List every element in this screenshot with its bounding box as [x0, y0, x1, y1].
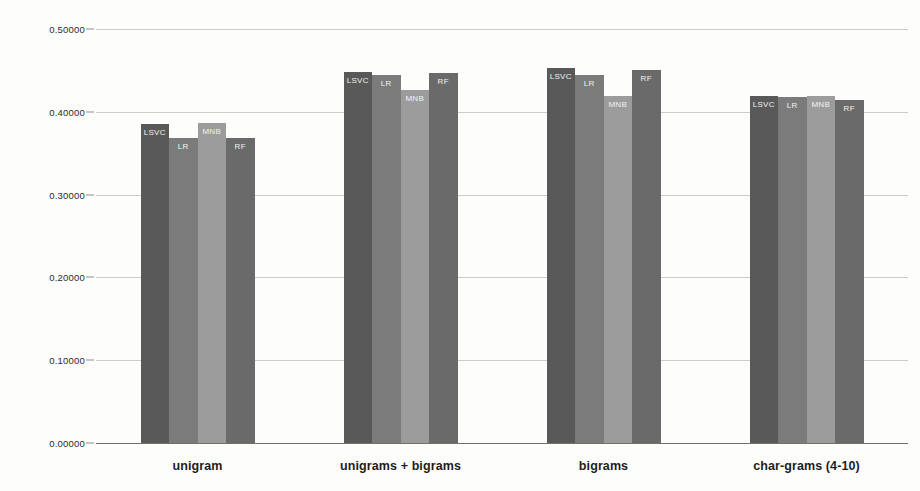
- category-label: unigram: [172, 459, 222, 473]
- y-axis-tick-label: 0.10000: [49, 355, 85, 366]
- bar-lr[interactable]: LR: [169, 138, 198, 443]
- bar-value-label: MNB: [807, 100, 836, 109]
- plot-area: 0.500000.400000.300000.200000.100000.000…: [96, 29, 908, 443]
- y-axis-tick: [86, 360, 94, 361]
- bar-value-label: LSVC: [344, 76, 373, 85]
- bar-mnb[interactable]: MNB: [807, 96, 836, 443]
- bar-lsvc[interactable]: LSVC: [344, 72, 373, 443]
- bar-value-label: RF: [632, 74, 661, 83]
- bar-rf[interactable]: RF: [835, 100, 864, 443]
- y-axis-tick-label: 0.50000: [49, 24, 85, 35]
- bar-lr[interactable]: LR: [575, 75, 604, 443]
- bar-value-label: MNB: [401, 94, 430, 103]
- y-axis-tick: [86, 194, 94, 195]
- bar-value-label: LSVC: [547, 72, 576, 81]
- category-label: bigrams: [579, 459, 628, 473]
- bar-mnb[interactable]: MNB: [604, 96, 633, 443]
- bar-rf[interactable]: RF: [632, 70, 661, 443]
- bar-value-label: RF: [226, 142, 255, 151]
- bar-value-label: LR: [778, 101, 807, 110]
- bar-group: LSVCLRMNBRF: [141, 29, 255, 443]
- y-axis-tick: [86, 277, 94, 278]
- bar-value-label: LR: [372, 79, 401, 88]
- bar-value-label: LR: [169, 142, 198, 151]
- bar-value-label: MNB: [198, 127, 227, 136]
- bar-lsvc[interactable]: LSVC: [141, 124, 170, 443]
- y-axis-tick-label: 0.00000: [49, 438, 85, 449]
- bar-lr[interactable]: LR: [778, 97, 807, 443]
- y-axis-tick: [86, 111, 94, 112]
- bar-mnb[interactable]: MNB: [198, 123, 227, 443]
- bar-lr[interactable]: LR: [372, 75, 401, 443]
- bar-value-label: LR: [575, 79, 604, 88]
- category-label: char-grams (4-10): [753, 459, 860, 473]
- bar-rf[interactable]: RF: [226, 138, 255, 443]
- bar-value-label: RF: [835, 104, 864, 113]
- bar-value-label: RF: [429, 77, 458, 86]
- axis-baseline: [96, 443, 908, 444]
- category-label: unigrams + bigrams: [340, 459, 461, 473]
- bar-lsvc[interactable]: LSVC: [547, 68, 576, 443]
- bar-value-label: LSVC: [750, 100, 779, 109]
- y-axis-tick-label: 0.40000: [49, 106, 85, 117]
- bar-mnb[interactable]: MNB: [401, 90, 430, 443]
- bar-rf[interactable]: RF: [429, 73, 458, 443]
- y-axis-tick-label: 0.30000: [49, 189, 85, 200]
- bar-group: LSVCLRMNBRF: [547, 29, 661, 443]
- y-axis-tick: [86, 443, 94, 444]
- bar-chart: 0.500000.400000.300000.200000.100000.000…: [0, 0, 920, 491]
- bar-group: LSVCLRMNBRF: [750, 29, 864, 443]
- y-axis-tick: [86, 29, 94, 30]
- bar-value-label: LSVC: [141, 128, 170, 137]
- y-axis-tick-label: 0.20000: [49, 272, 85, 283]
- bar-lsvc[interactable]: LSVC: [750, 96, 779, 443]
- bar-group: LSVCLRMNBRF: [344, 29, 458, 443]
- bar-value-label: MNB: [604, 100, 633, 109]
